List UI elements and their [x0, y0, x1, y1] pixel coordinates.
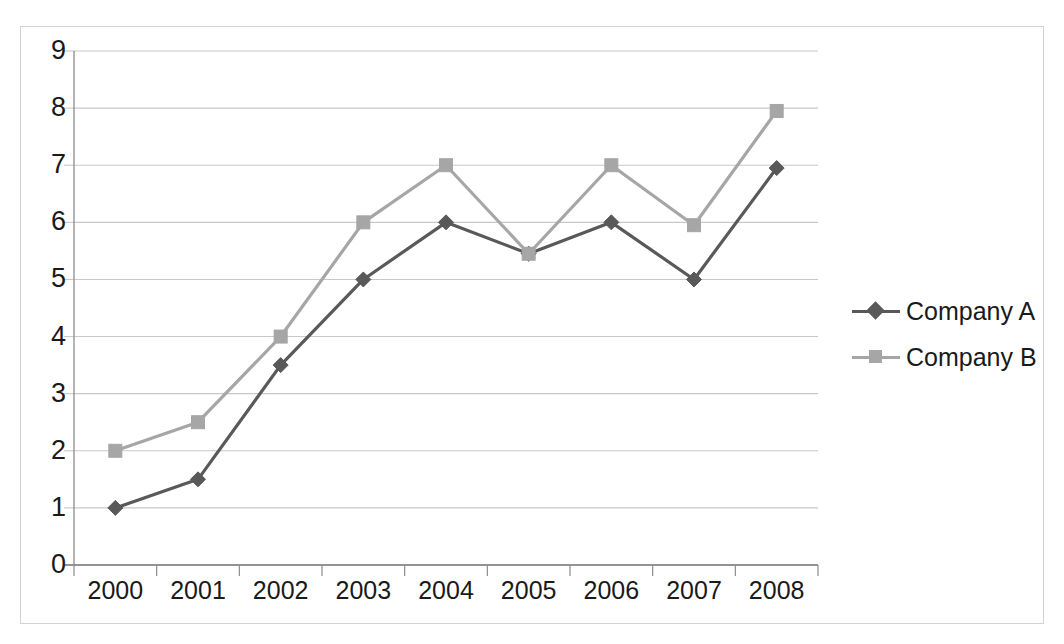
diamond-marker-icon: [866, 301, 884, 319]
x-tick-label: 2005: [484, 578, 574, 603]
data-point-square: [770, 104, 783, 117]
y-tick-label: 4: [20, 323, 66, 350]
x-tick-label: 2007: [649, 578, 739, 603]
legend-swatch-company-b: [852, 346, 900, 368]
chart-legend: Company A Company B: [852, 288, 1042, 380]
y-tick-label: 1: [20, 494, 66, 521]
x-tick-label: 2004: [401, 578, 491, 603]
y-tick-label: 9: [20, 37, 66, 64]
data-point-square: [605, 159, 618, 172]
legend-label-company-a: Company A: [900, 299, 1035, 324]
x-tick-label: 2002: [236, 578, 326, 603]
y-tick-label: 7: [20, 151, 66, 178]
square-marker-icon: [869, 350, 882, 363]
legend-swatch-company-a: [852, 300, 900, 322]
data-point-square: [522, 247, 535, 260]
x-tick-label: 2006: [566, 578, 656, 603]
y-tick-label: 2: [20, 437, 66, 464]
data-point-square: [274, 330, 287, 343]
legend-label-company-b: Company B: [900, 345, 1037, 370]
data-point-square: [109, 444, 122, 457]
x-tick-label: 2001: [153, 578, 243, 603]
x-tick-label: 2003: [318, 578, 408, 603]
data-point-square: [440, 159, 453, 172]
data-point-diamond: [108, 500, 123, 515]
data-point-square: [357, 216, 370, 229]
data-point-square: [192, 416, 205, 429]
data-point-square: [688, 219, 701, 232]
y-tick-label: 0: [20, 551, 66, 578]
y-tick-label: 3: [20, 380, 66, 407]
legend-entry-company-b: Company B: [852, 334, 1042, 380]
y-tick-label: 8: [20, 94, 66, 121]
legend-entry-company-a: Company A: [852, 288, 1042, 334]
y-tick-label: 6: [20, 208, 66, 235]
x-tick-label: 2008: [732, 578, 822, 603]
line-chart-figure: 9 8 7 6 5 4 3 2 1 0 2000 2001 2002 2003 …: [0, 0, 1064, 644]
x-tick-label: 2000: [70, 578, 160, 603]
y-tick-label: 5: [20, 265, 66, 292]
